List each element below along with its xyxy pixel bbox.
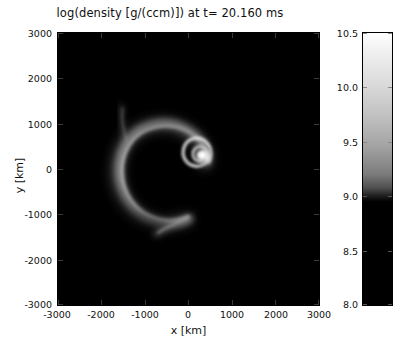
page-title: log(density [g/(ccm)]) at t= 20.160 ms <box>0 6 340 20</box>
colorbar-tick-label: 9.0 <box>358 191 373 202</box>
colorbar-tick-label-text: 9.5 <box>343 137 358 148</box>
y-tick-label: 3000 <box>52 28 76 39</box>
x-tick-inner <box>188 300 189 305</box>
colorbar-tick-label: 9.5 <box>358 137 373 148</box>
colorbar-tick-label-text: 8.0 <box>343 299 358 310</box>
x-tick-inner <box>275 300 276 305</box>
y-tick-inner-right <box>314 124 319 125</box>
y-tick-label-text: -1000 <box>24 209 52 220</box>
density-field-image <box>58 33 319 305</box>
y-tick-label: -3000 <box>52 299 80 310</box>
colorbar-tick-label-text: 8.5 <box>343 246 358 257</box>
colorbar <box>362 32 393 306</box>
x-tick-label: -3000 <box>43 309 71 320</box>
colorbar-tick-right <box>388 304 392 305</box>
colorbar-tick-label: 8.0 <box>358 299 373 310</box>
y-tick-label-text: 1000 <box>28 119 52 130</box>
colorbar-tick-label: 10.0 <box>358 82 379 93</box>
y-tick-inner-right <box>314 260 319 261</box>
y-tick-label: 0 <box>52 164 58 175</box>
y-tick-label-text: -3000 <box>24 299 52 310</box>
y-tick-label-text: 0 <box>46 164 52 175</box>
x-tick-label: -2000 <box>87 309 115 320</box>
colorbar-tick-label: 10.5 <box>358 28 379 39</box>
x-tick-label: -1000 <box>131 309 159 320</box>
y-tick-inner-right <box>314 304 319 305</box>
y-tick-label-text: 3000 <box>28 28 52 39</box>
x-tick-inner-top <box>188 33 189 38</box>
y-tick-inner-right <box>314 214 319 215</box>
x-tick-label: 0 <box>185 309 191 320</box>
colorbar-tick-right <box>388 251 392 252</box>
colorbar-tick-right <box>388 142 392 143</box>
colorbar-tick-label-text: 10.5 <box>337 28 358 39</box>
x-tick-label: 2000 <box>264 309 288 320</box>
y-tick-inner-right <box>314 78 319 79</box>
y-tick-inner <box>58 169 63 170</box>
y-tick-inner-right <box>314 33 319 34</box>
y-tick-label-text: -2000 <box>24 255 52 266</box>
x-tick-inner <box>145 300 146 305</box>
colorbar-tick-right <box>388 196 392 197</box>
colorbar-tick-label-text: 9.0 <box>343 191 358 202</box>
y-tick-label-text: 2000 <box>28 73 52 84</box>
y-tick-label: -2000 <box>52 255 80 266</box>
y-axis-title: y [km] <box>13 141 26 211</box>
density-field-svg <box>58 33 319 305</box>
colorbar-gradient <box>363 33 392 305</box>
x-tick-inner-top <box>145 33 146 38</box>
x-tick-inner-top <box>232 33 233 38</box>
plot-area <box>57 32 320 306</box>
y-tick-label: 1000 <box>52 119 76 130</box>
x-tick-inner <box>101 300 102 305</box>
x-tick-label: 3000 <box>307 309 331 320</box>
colorbar-tick-label-text: 10.0 <box>337 82 358 93</box>
y-tick-label: 2000 <box>52 73 76 84</box>
figure-root: log(density [g/(ccm)]) at t= 20.160 ms <box>0 0 403 352</box>
x-axis-title: x [km] <box>57 324 320 337</box>
colorbar-tick-right <box>388 33 392 34</box>
y-tick-label: -1000 <box>52 209 80 220</box>
colorbar-tick-label: 8.5 <box>358 246 373 257</box>
x-tick-inner-top <box>101 33 102 38</box>
x-tick-label: 1000 <box>220 309 244 320</box>
y-tick-inner-right <box>314 169 319 170</box>
colorbar-tick-right <box>388 87 392 88</box>
x-tick-inner <box>232 300 233 305</box>
x-tick-inner-top <box>275 33 276 38</box>
